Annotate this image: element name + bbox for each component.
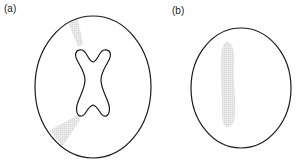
shaded-band (221, 42, 235, 127)
outer-ellipse-a (35, 16, 151, 158)
shaded-wedge-lower (50, 115, 80, 147)
outer-ellipse-b (191, 28, 291, 148)
diagram-canvas (0, 0, 302, 163)
panel-a (35, 16, 151, 158)
x-shaped-contour (76, 50, 111, 116)
panel-b (191, 28, 291, 148)
shaded-wedge-upper (68, 19, 83, 47)
